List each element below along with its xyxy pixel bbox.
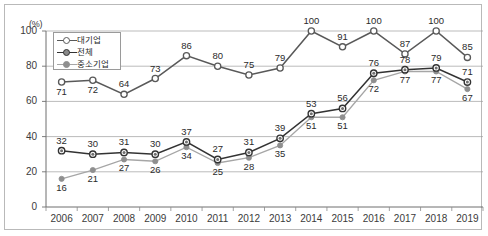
data-label-중소기업-2018: 77 [423,74,449,85]
y-tick-40: 40 [15,131,37,142]
data-label-대기업-2008: 64 [111,78,137,89]
data-label-대기업-2019: 85 [454,41,480,52]
legend-label-jungsogieop: 중소기업 [77,59,109,70]
data-label-전체-2014: 53 [298,98,324,109]
legend-label-jeonche: 전체 [77,47,93,58]
data-label-중소기업-2015: 51 [330,120,356,131]
data-label-중소기업-2007: 21 [80,173,106,184]
x-tick-2019: 2019 [447,213,487,224]
data-label-전체-2010: 37 [173,126,199,137]
chart-frame: (%) 대기업 전체 중소기업 020406080100 20062007200 [4,4,482,230]
data-label-전체-2007: 30 [80,138,106,149]
y-tick-60: 60 [15,95,37,106]
data-label-중소기업-2010: 34 [173,150,199,161]
data-label-대기업-2006: 71 [49,86,75,97]
data-label-전체-2009: 30 [142,138,168,149]
legend-item-jungsogieop[interactable]: 중소기업 [57,59,117,70]
filled-circle-marker-icon [57,59,77,70]
data-label-중소기업-2006: 16 [49,182,75,193]
data-label-전체-2006: 32 [49,135,75,146]
y-tick-80: 80 [15,60,37,71]
data-label-대기업-2013: 79 [267,52,293,63]
data-label-전체-2011: 27 [205,143,231,154]
data-label-대기업-2010: 86 [173,40,199,51]
data-label-대기업-2018: 100 [423,15,449,26]
data-label-대기업-2016: 100 [361,15,387,26]
data-label-대기업-2007: 72 [80,84,106,95]
y-tick-20: 20 [15,166,37,177]
data-label-전체-2008: 31 [111,136,137,147]
data-label-중소기업-2017: 77 [392,74,418,85]
data-label-대기업-2012: 75 [236,59,262,70]
data-label-중소기업-2013: 35 [267,148,293,159]
data-label-중소기업-2009: 26 [142,164,168,175]
data-label-전체-2013: 39 [267,122,293,133]
data-label-대기업-2014: 100 [298,15,324,26]
dot-circle-marker-icon [57,47,77,58]
data-label-중소기업-2019: 67 [454,92,480,103]
data-label-중소기업-2011: 25 [205,166,231,177]
legend-item-daegieop[interactable]: 대기업 [57,35,117,46]
y-tick-100: 100 [15,25,37,36]
data-label-중소기업-2014: 51 [298,120,324,131]
data-label-전체-2016: 76 [361,57,387,68]
data-label-전체-2015: 56 [330,92,356,103]
data-label-전체-2017: 78 [392,54,418,65]
data-label-전체-2019: 71 [454,66,480,77]
data-label-대기업-2015: 91 [330,31,356,42]
data-label-대기업-2017: 87 [392,38,418,49]
chart-legend: 대기업 전체 중소기업 [53,32,121,70]
legend-label-daegieop: 대기업 [77,35,101,46]
data-label-중소기업-2012: 28 [236,161,262,172]
data-label-중소기업-2008: 27 [111,162,137,173]
data-label-전체-2012: 31 [236,136,262,147]
open-circle-marker-icon [57,35,77,46]
legend-item-jeonche[interactable]: 전체 [57,47,117,58]
y-tick-0: 0 [15,201,37,212]
data-label-대기업-2011: 80 [205,50,231,61]
data-label-대기업-2009: 73 [142,63,168,74]
data-label-중소기업-2016: 72 [361,83,387,94]
data-label-전체-2018: 79 [423,52,449,63]
